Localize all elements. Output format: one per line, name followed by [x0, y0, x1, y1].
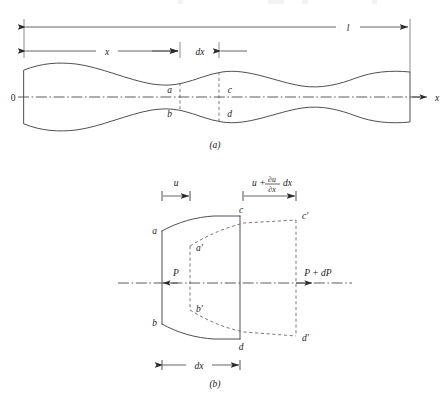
caption-panel-b: (b)	[209, 379, 220, 390]
figure-canvas: l x dx 0 x a b c d (a) u	[0, 0, 445, 395]
label-corner-d: d	[227, 109, 232, 119]
displaced-top-edge	[190, 220, 296, 246]
label-displacement-right-tail: dx	[283, 178, 293, 188]
label-element-width-a: dx	[196, 47, 206, 57]
label-corner-c-b: c	[239, 205, 244, 215]
label-axis-x: x	[434, 93, 440, 103]
label-force-P-dP: P + dP	[303, 268, 332, 278]
figure-root: l x dx 0 x a b c d (a) u	[0, 0, 445, 395]
label-corner-a: a	[167, 85, 172, 95]
label-corner-b: b	[167, 109, 172, 119]
label-origin: 0	[11, 93, 16, 103]
label-corner-b-prime: b′	[196, 304, 204, 314]
caption-panel-a: (a)	[209, 140, 220, 151]
label-displacement-right-denominator: ∂x	[268, 185, 276, 194]
label-corner-c-prime: c′	[302, 211, 309, 221]
label-corner-c: c	[228, 85, 233, 95]
element-bottom-edge	[162, 324, 240, 339]
displaced-bottom-edge	[190, 310, 296, 336]
label-displacement-right-lead: u +	[252, 178, 266, 188]
label-distance-x: x	[104, 47, 110, 57]
label-total-length: l	[347, 23, 350, 33]
label-force-P: P	[172, 268, 179, 278]
label-element-width-b: dx	[195, 361, 205, 371]
label-corner-d-b: d	[239, 342, 244, 352]
label-corner-b-b: b	[152, 318, 157, 328]
element-top-edge	[162, 216, 240, 231]
label-corner-a-b: a	[152, 226, 157, 236]
label-corner-a-prime: a′	[196, 243, 204, 253]
label-displacement-right-numerator: ∂u	[268, 175, 276, 184]
label-displacement-u: u	[174, 178, 179, 188]
label-corner-d-prime: d′	[302, 333, 310, 343]
